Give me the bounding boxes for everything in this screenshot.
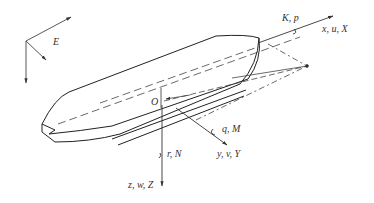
origin-label: O	[151, 97, 158, 107]
roll-label: K, p	[282, 13, 299, 23]
yaw-label: r, N	[167, 149, 181, 159]
z-axis-label: z, w, Z	[128, 180, 153, 190]
earth-frame-label: E	[53, 37, 59, 47]
ship-axes-diagram: E O K, p x, u, X q, M y, v, Y r, N z, w,…	[0, 0, 374, 203]
velocity-vector-lines	[164, 44, 308, 120]
pitch-label: q, M	[222, 124, 240, 134]
earth-frame-axes	[26, 17, 71, 83]
x-axis-label: x, u, X	[322, 24, 348, 34]
diagram-svg	[0, 0, 374, 203]
y-axis-label: y, v, Y	[217, 149, 240, 159]
y-axis	[176, 108, 227, 145]
